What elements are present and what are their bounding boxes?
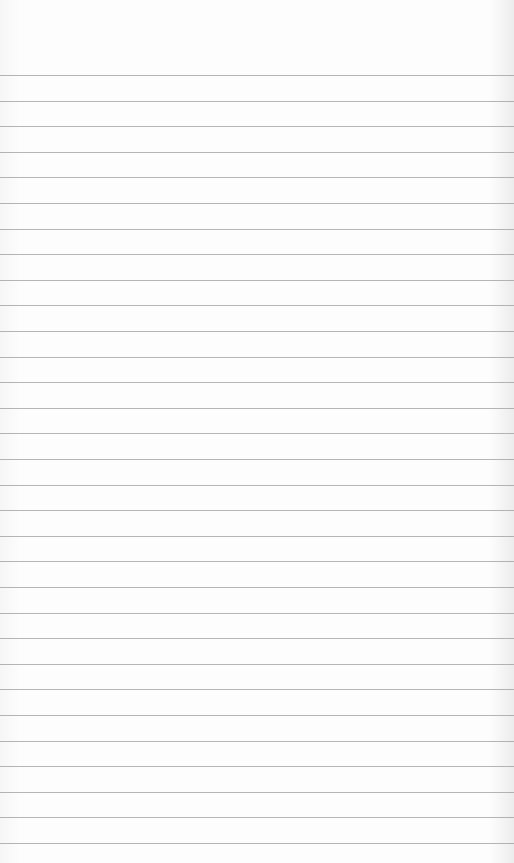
ruled-line <box>0 254 514 255</box>
ruled-line <box>0 229 514 230</box>
ruled-line <box>0 715 514 716</box>
ruled-line <box>0 177 514 178</box>
ruled-line <box>0 766 514 767</box>
ruled-line <box>0 408 514 409</box>
ruled-line <box>0 792 514 793</box>
ruled-line <box>0 664 514 665</box>
ruled-line <box>0 152 514 153</box>
ruled-line <box>0 331 514 332</box>
ruled-line <box>0 561 514 562</box>
ruled-line <box>0 741 514 742</box>
ruled-line <box>0 357 514 358</box>
ruled-line <box>0 305 514 306</box>
ruled-line <box>0 613 514 614</box>
lined-paper-sheet <box>0 0 514 863</box>
ruled-line <box>0 101 514 102</box>
ruled-line <box>0 843 514 844</box>
ruled-line <box>0 433 514 434</box>
ruled-line <box>0 536 514 537</box>
ruled-line <box>0 638 514 639</box>
ruled-line <box>0 817 514 818</box>
ruled-line <box>0 587 514 588</box>
ruled-line <box>0 126 514 127</box>
ruled-line <box>0 459 514 460</box>
ruled-line <box>0 203 514 204</box>
ruled-line <box>0 382 514 383</box>
ruled-line <box>0 75 514 76</box>
ruled-line <box>0 689 514 690</box>
ruled-line <box>0 280 514 281</box>
ruled-line <box>0 485 514 486</box>
ruled-line <box>0 510 514 511</box>
